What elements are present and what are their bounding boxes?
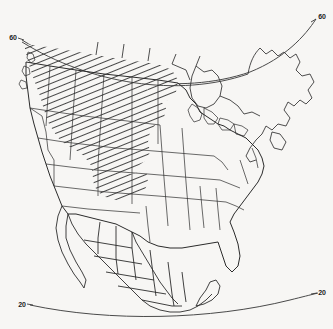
map-canvas: 60 60 20 20 — [0, 0, 333, 329]
latitude-label-60-right: 60 — [318, 13, 326, 20]
map-figure: 60 60 20 20 — [0, 0, 333, 329]
latitude-label-20-left: 20 — [18, 301, 26, 308]
latitude-label-60-left: 60 — [9, 34, 17, 41]
latitude-label-20-right: 20 — [318, 289, 326, 296]
